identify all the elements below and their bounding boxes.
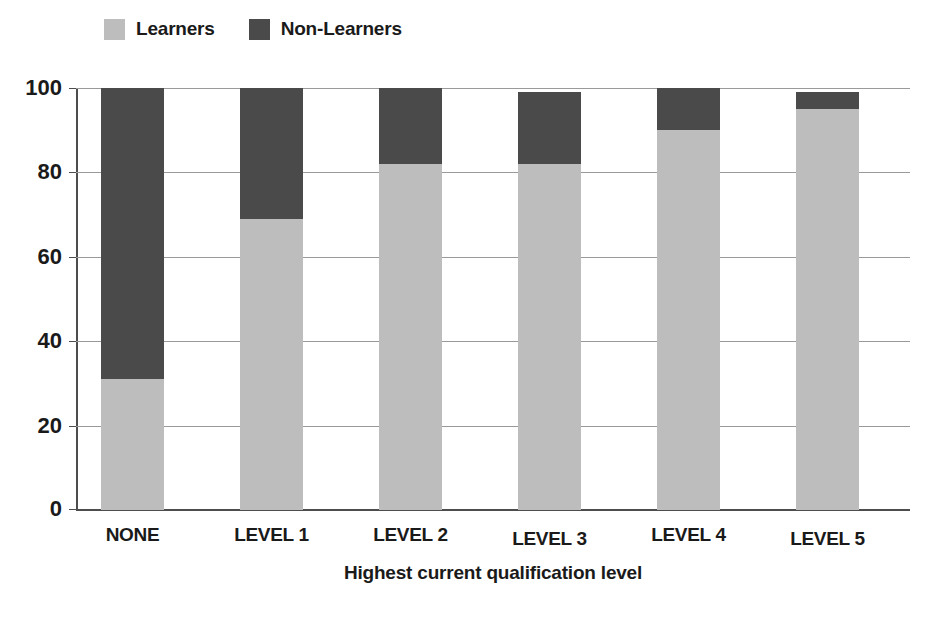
legend-swatch-learners-icon <box>104 19 125 40</box>
y-tick-label-40: 40 <box>38 328 62 354</box>
legend-label-non-learners: Non-Learners <box>281 18 402 40</box>
bar-segment-learners[interactable] <box>240 219 303 510</box>
bar-segment-non-learners[interactable] <box>379 88 442 164</box>
y-tick-mark-80 <box>69 172 76 173</box>
y-axis-line <box>76 88 78 510</box>
gridline-100: 100 <box>76 88 910 89</box>
stacked-bar-chart: Learners Non-Learners 100 80 60 40 20 <box>0 0 933 617</box>
x-tick-label-level-3: LEVEL 3 <box>512 528 587 550</box>
bar-stack <box>101 88 164 510</box>
bar-segment-non-learners[interactable] <box>518 92 581 164</box>
y-tick-label-0: 0 <box>50 496 62 522</box>
legend-item-non-learners: Non-Learners <box>249 18 402 40</box>
gridline-0-baseline: 0 <box>76 509 910 511</box>
legend-swatch-non-learners-icon <box>249 19 270 40</box>
y-tick-label-80: 80 <box>38 159 62 185</box>
gridline-80: 80 <box>76 172 910 173</box>
bar-stack <box>657 88 720 510</box>
x-tick-label-level-1: LEVEL 1 <box>234 524 309 546</box>
bar-group-level-1[interactable]: LEVEL 1 <box>240 88 303 510</box>
y-tick-label-20: 20 <box>38 413 62 439</box>
y-tick-mark-0 <box>69 509 76 510</box>
legend-item-learners: Learners <box>104 18 215 40</box>
y-tick-mark-100 <box>69 88 76 89</box>
x-tick-label-level-5: LEVEL 5 <box>790 528 865 550</box>
bar-group-level-4[interactable]: LEVEL 4 <box>657 88 720 510</box>
bar-segment-learners[interactable] <box>796 109 859 510</box>
bar-group-level-2[interactable]: LEVEL 2 <box>379 88 442 510</box>
bar-stack <box>518 92 581 510</box>
x-axis-title: Highest current qualification level <box>76 562 910 584</box>
bar-segment-non-learners[interactable] <box>796 92 859 109</box>
x-tick-label-level-2: LEVEL 2 <box>373 524 448 546</box>
x-tick-label-none: NONE <box>106 524 160 546</box>
chart-legend: Learners Non-Learners <box>104 17 402 41</box>
bar-group-level-5[interactable]: LEVEL 5 <box>796 92 859 510</box>
legend-label-learners: Learners <box>136 18 215 40</box>
y-tick-mark-60 <box>69 257 76 258</box>
gridline-20: 20 <box>76 426 910 427</box>
bar-segment-learners[interactable] <box>657 130 720 510</box>
bar-segment-non-learners[interactable] <box>240 88 303 219</box>
bar-segment-non-learners[interactable] <box>101 88 164 379</box>
bar-segment-learners[interactable] <box>379 164 442 510</box>
bar-stack <box>240 88 303 510</box>
plot-area: 100 80 60 40 20 0 NONE <box>76 88 910 510</box>
gridline-60: 60 <box>76 257 910 258</box>
bar-segment-non-learners[interactable] <box>657 88 720 130</box>
bar-segment-learners[interactable] <box>101 379 164 510</box>
bar-stack <box>796 92 859 510</box>
bar-segment-learners[interactable] <box>518 164 581 510</box>
gridline-40: 40 <box>76 341 910 342</box>
bar-stack <box>379 88 442 510</box>
x-tick-label-level-4: LEVEL 4 <box>651 524 726 546</box>
y-tick-mark-40 <box>69 341 76 342</box>
y-tick-mark-20 <box>69 426 76 427</box>
y-tick-label-60: 60 <box>38 244 62 270</box>
bar-group-level-3[interactable]: LEVEL 3 <box>518 92 581 510</box>
bar-group-none[interactable]: NONE <box>101 88 164 510</box>
y-tick-label-100: 100 <box>25 75 62 101</box>
